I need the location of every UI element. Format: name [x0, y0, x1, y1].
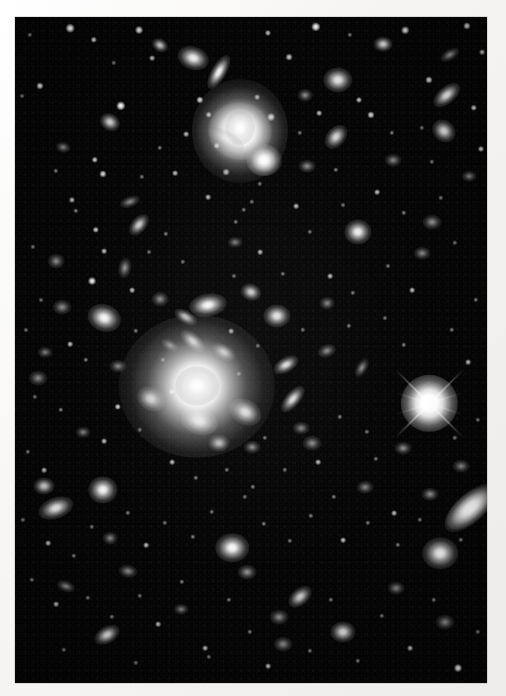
star [209, 509, 214, 514]
galaxy [224, 393, 266, 432]
star [163, 231, 168, 236]
star [373, 456, 378, 461]
star [93, 227, 99, 233]
star [367, 111, 374, 118]
galaxy [395, 442, 412, 455]
star [228, 328, 234, 334]
star [300, 327, 305, 332]
star [183, 131, 189, 137]
star [327, 273, 333, 279]
star [66, 24, 75, 33]
star [226, 597, 231, 602]
star [452, 240, 457, 245]
star [347, 32, 352, 37]
galaxy [293, 422, 310, 435]
star [257, 181, 262, 186]
galaxy [203, 52, 235, 92]
star [350, 290, 355, 295]
galaxy [316, 342, 338, 360]
star [101, 248, 107, 254]
star [143, 542, 149, 548]
star [458, 537, 463, 542]
galaxy [263, 304, 290, 327]
star [340, 202, 345, 207]
star [293, 203, 299, 209]
galaxy [385, 154, 402, 167]
galaxy [352, 356, 372, 379]
central-cd-galaxy [119, 315, 275, 458]
star [58, 407, 63, 412]
star [206, 654, 211, 659]
star [315, 459, 321, 465]
galaxy [298, 89, 313, 102]
star [401, 210, 406, 215]
star [308, 513, 313, 518]
star [99, 170, 106, 177]
star [409, 287, 415, 293]
star [23, 327, 28, 332]
edge-on-elliptical-galaxy [436, 476, 487, 541]
star [337, 414, 342, 419]
galaxy [125, 211, 152, 240]
star [61, 647, 66, 652]
star [346, 323, 351, 328]
galaxy [436, 615, 455, 630]
star [71, 553, 76, 558]
star [452, 435, 457, 440]
star [67, 341, 73, 347]
star [179, 579, 184, 584]
star [101, 438, 107, 444]
star [169, 459, 175, 465]
galaxy [209, 339, 238, 364]
galaxy [414, 247, 431, 260]
galaxy [244, 441, 261, 454]
star [29, 577, 34, 582]
star [38, 297, 43, 302]
central-cd-galaxy-core [175, 366, 219, 405]
star [129, 287, 135, 293]
star [385, 263, 390, 268]
galaxy [430, 78, 465, 111]
galaxy [320, 297, 335, 310]
galaxy [118, 193, 141, 210]
star [401, 26, 409, 34]
galaxy [357, 481, 374, 494]
galaxy [462, 171, 477, 182]
star [473, 297, 478, 302]
galaxy [187, 290, 228, 319]
star [111, 60, 116, 65]
star [479, 49, 485, 55]
galaxy [110, 360, 127, 373]
star [125, 510, 130, 515]
galaxy [48, 254, 65, 269]
film-grain-layer [15, 17, 487, 683]
star [316, 110, 322, 116]
star [85, 595, 90, 600]
galaxy [388, 582, 405, 595]
star [265, 30, 271, 36]
galaxy [177, 402, 222, 441]
galaxy [238, 281, 263, 304]
star [92, 157, 98, 163]
star [146, 249, 151, 254]
star [401, 342, 406, 347]
star [41, 467, 47, 473]
sky-field [15, 17, 487, 683]
bright-diffraction-star [400, 374, 457, 431]
galaxy [172, 305, 200, 329]
star [214, 143, 220, 149]
tidal-plume [205, 123, 248, 156]
diffraction-spike [394, 368, 463, 437]
galaxy [117, 257, 133, 280]
star [262, 435, 267, 440]
star [267, 113, 275, 121]
star [206, 112, 212, 118]
star [419, 125, 424, 130]
star [135, 26, 143, 34]
star [236, 371, 241, 376]
diffraction-spike [395, 391, 462, 414]
upper-bright-galaxy-core [225, 111, 255, 145]
star [205, 194, 211, 200]
galaxy [159, 336, 181, 355]
star [83, 357, 88, 362]
